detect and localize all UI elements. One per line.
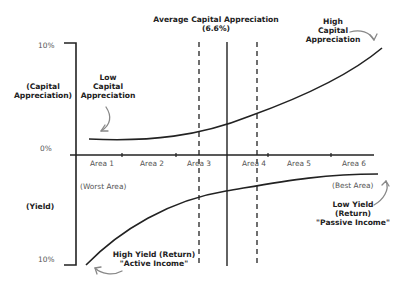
title-line1: Average Capital Appreciation bbox=[142, 15, 290, 24]
x-label-area2: Area 2 bbox=[140, 160, 164, 169]
low-yield-3: "Passive Income" bbox=[315, 218, 391, 227]
low-yield-1: Low Yield bbox=[315, 200, 391, 209]
x-label-area3: Area 3 bbox=[187, 160, 211, 169]
y-label-capital: (Capital Appreciation) bbox=[12, 82, 74, 100]
best-area-label: (Best Area) bbox=[332, 182, 374, 191]
high-yield-annotation: High Yield (Return) "Active Income" bbox=[112, 250, 196, 268]
x-label-area1: Area 1 bbox=[90, 160, 114, 169]
x-label-area5: Area 5 bbox=[287, 160, 311, 169]
y-tick-zero: 0% bbox=[40, 145, 52, 154]
low-capital-annotation: Low Capital Appreciation bbox=[80, 73, 136, 100]
chart: Average Capital Appreciation (6.6%) 10% … bbox=[0, 0, 406, 294]
low-yield-annotation: Low Yield (Return) "Passive Income" bbox=[315, 200, 391, 227]
y-axis bbox=[64, 43, 76, 265]
y-label-capital-1: (Capital bbox=[12, 82, 74, 91]
high-cap-1: High bbox=[303, 17, 363, 26]
worst-area-label: (Worst Area) bbox=[80, 183, 126, 192]
x-label-area4: Area 4 bbox=[242, 160, 266, 169]
low-cap-3: Appreciation bbox=[80, 91, 136, 100]
low-cap-1: Low bbox=[80, 73, 136, 82]
chart-title: Average Capital Appreciation (6.6%) bbox=[142, 15, 290, 33]
arrow-low-yield-head-icon bbox=[382, 181, 389, 186]
high-yield-2: "Active Income" bbox=[112, 259, 196, 268]
arrow-low-cap-icon bbox=[101, 107, 110, 131]
high-cap-2: Capital bbox=[303, 26, 363, 35]
y-tick-bottom: 10% bbox=[38, 256, 54, 265]
y-label-capital-2: Appreciation) bbox=[12, 91, 74, 100]
high-cap-3: Appreciation bbox=[303, 35, 363, 44]
y-tick-top: 10% bbox=[38, 42, 54, 51]
title-line2: (6.6%) bbox=[142, 24, 290, 33]
arrow-high-cap-head-icon bbox=[370, 34, 377, 40]
y-label-yield: (Yield) bbox=[26, 202, 54, 211]
high-yield-1: High Yield (Return) bbox=[112, 250, 196, 259]
low-yield-2: (Return) bbox=[315, 209, 391, 218]
x-label-area6: Area 6 bbox=[342, 160, 366, 169]
high-capital-annotation: High Capital Appreciation bbox=[303, 17, 363, 44]
low-cap-2: Capital bbox=[80, 82, 136, 91]
